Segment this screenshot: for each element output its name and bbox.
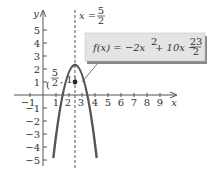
vertex-label: ( 5 2 , 1) <box>46 67 77 90</box>
svg-text:(: ( <box>46 79 50 90</box>
svg-text:6: 6 <box>118 97 124 108</box>
function-graph: −1 1 2 3 4 5 6 7 8 9 x 5 4 3 2 1 −1 −2 −… <box>0 0 214 189</box>
svg-text:−2: −2 <box>25 116 40 127</box>
svg-text:7: 7 <box>131 97 137 108</box>
svg-text:5: 5 <box>34 25 40 36</box>
svg-text:−4: −4 <box>25 142 40 153</box>
svg-text:5: 5 <box>105 97 111 108</box>
svg-text:2: 2 <box>34 64 40 75</box>
svg-text:3: 3 <box>34 51 40 62</box>
svg-text:2: 2 <box>193 46 199 57</box>
svg-text:9: 9 <box>157 97 163 108</box>
svg-text:−3: −3 <box>25 129 40 140</box>
svg-text:3: 3 <box>78 97 84 108</box>
x-tick-labels: −1 1 2 3 4 5 6 7 8 9 <box>21 97 164 108</box>
svg-text:4: 4 <box>92 97 98 108</box>
svg-text:−1: −1 <box>25 103 40 114</box>
axis-of-symmetry-label: x = 5 2 <box>79 5 105 26</box>
svg-text:−5: −5 <box>25 155 40 166</box>
callout-leader-line <box>82 63 98 82</box>
function-callout: f(x) = −2x 2 + 10x − 23 2 <box>85 33 207 64</box>
y-axis-label: y <box>32 8 39 19</box>
svg-text:f(x) = −2x: f(x) = −2x <box>92 42 146 53</box>
svg-text:1: 1 <box>34 77 40 88</box>
svg-text:2: 2 <box>98 15 104 26</box>
svg-text:2: 2 <box>65 97 71 108</box>
svg-text:x =: x = <box>79 10 96 21</box>
svg-text:2: 2 <box>52 77 58 88</box>
svg-text:, 1): , 1) <box>60 74 77 85</box>
svg-text:4: 4 <box>34 38 40 49</box>
svg-text:1: 1 <box>53 97 59 108</box>
svg-text:8: 8 <box>144 97 150 108</box>
x-axis-label: x <box>171 97 177 108</box>
